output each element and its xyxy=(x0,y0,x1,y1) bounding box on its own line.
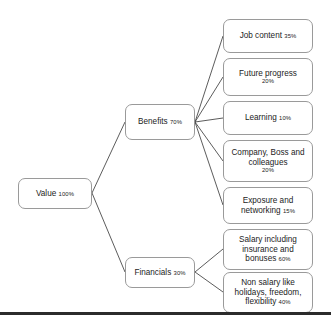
node-learning-label: Learning xyxy=(245,113,277,122)
node-company-boss-colleagues-percent: 20% xyxy=(227,167,309,174)
node-exposure-networking[interactable]: Exposure and networking 15% xyxy=(223,187,313,224)
node-value[interactable]: Value 100% xyxy=(18,178,92,209)
node-company-boss-colleagues-label: Company, Boss and colleagues xyxy=(231,148,304,167)
node-benefits-label: Benefits xyxy=(138,117,168,126)
node-benefits[interactable]: Benefits 70% xyxy=(125,104,195,140)
node-future-progress[interactable]: Future progress 20% xyxy=(223,58,313,96)
node-future-progress-label: Future progress xyxy=(239,69,297,78)
connector-financials-salary xyxy=(195,249,223,272)
node-job-content-percent: 35% xyxy=(284,33,296,39)
bottom-divider xyxy=(0,312,331,315)
connector-financials-nonsalary xyxy=(195,272,223,292)
node-job-content[interactable]: Job content 35% xyxy=(223,19,313,53)
connector-benefits-exposure xyxy=(195,122,223,205)
connector-value-benefits xyxy=(92,122,125,193)
node-learning-percent: 10% xyxy=(279,115,291,121)
connector-benefits-learning xyxy=(195,118,223,122)
value-tree-diagram: Value 100% Benefits 70% Financials 30% J… xyxy=(0,0,331,329)
node-job-content-label: Job content xyxy=(240,31,282,40)
node-company-boss-colleagues[interactable]: Company, Boss and colleagues 20% xyxy=(223,140,313,182)
node-financials-label: Financials xyxy=(134,268,171,277)
node-exposure-networking-percent: 15% xyxy=(283,208,295,214)
node-future-progress-percent: 20% xyxy=(239,78,297,85)
connector-benefits-company xyxy=(195,122,223,161)
node-salary-insurance-bonuses-percent: 60% xyxy=(279,256,291,262)
connector-benefits-job xyxy=(195,36,223,122)
node-non-salary-benefits-percent: 40% xyxy=(279,299,291,305)
node-value-label: Value xyxy=(36,189,56,198)
node-salary-insurance-bonuses[interactable]: Salary including insurance and bonuses 6… xyxy=(223,229,313,270)
node-financials-percent: 30% xyxy=(174,270,186,276)
node-benefits-percent: 70% xyxy=(170,119,182,125)
node-value-percent: 100% xyxy=(59,191,74,197)
node-learning[interactable]: Learning 10% xyxy=(223,101,313,135)
node-financials[interactable]: Financials 30% xyxy=(125,257,195,288)
connector-benefits-future xyxy=(195,77,223,122)
connector-value-financials xyxy=(92,193,125,272)
node-non-salary-benefits[interactable]: Non salary like holidays, freedom, flexi… xyxy=(223,272,313,313)
node-non-salary-benefits-label: Non salary like holidays, freedom, flexi… xyxy=(235,278,302,306)
